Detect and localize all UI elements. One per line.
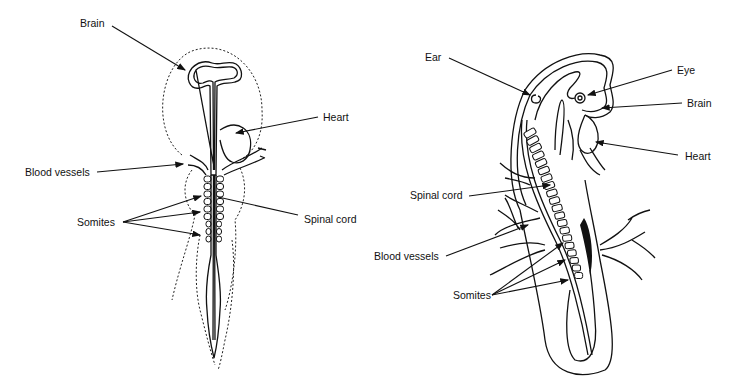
left-embryo: Brain Heart Blood vessels Somites Spinal… bbox=[25, 17, 357, 370]
left-somite bbox=[217, 229, 222, 235]
right-somites-pointer-2 bbox=[492, 260, 565, 295]
right-label-blood-vessels: Blood vessels bbox=[374, 250, 439, 262]
left-somite bbox=[206, 229, 211, 235]
right-somite bbox=[552, 204, 563, 212]
left-somite bbox=[217, 176, 224, 182]
left-spinal-cord-pointer bbox=[218, 197, 298, 215]
left-label-heart: Heart bbox=[323, 111, 349, 123]
right-somite bbox=[567, 250, 576, 257]
right-eye-pointer bbox=[588, 70, 672, 95]
right-somite bbox=[572, 265, 580, 271]
left-somite bbox=[204, 214, 211, 220]
left-somite bbox=[204, 199, 211, 205]
left-somite bbox=[204, 176, 211, 182]
right-label-ear: Ear bbox=[425, 51, 442, 63]
left-brain-pointer bbox=[112, 26, 185, 70]
right-somites-pointer-3 bbox=[492, 280, 568, 295]
left-label-spinal-cord: Spinal cord bbox=[304, 213, 357, 225]
left-label-somites: Somites bbox=[77, 216, 115, 228]
right-somite bbox=[549, 196, 560, 205]
left-label-blood-vessels: Blood vessels bbox=[25, 166, 90, 178]
left-somite bbox=[217, 206, 224, 212]
right-blood-vessels-pointer bbox=[446, 225, 528, 256]
left-blood-vessels-pointer bbox=[97, 164, 183, 172]
left-somite bbox=[217, 199, 224, 205]
right-somite bbox=[562, 234, 572, 241]
right-label-brain: Brain bbox=[687, 97, 712, 109]
right-somite bbox=[557, 219, 567, 227]
left-somite bbox=[217, 236, 222, 242]
left-spinal-cord-inner bbox=[213, 175, 215, 340]
right-somite bbox=[560, 227, 570, 234]
left-blood-vessels-shape bbox=[188, 148, 266, 175]
right-spinal-cord-shape bbox=[521, 120, 592, 355]
left-embryo-outline-upper bbox=[163, 48, 263, 160]
left-somites-pointer-3 bbox=[123, 222, 200, 235]
right-label-somites: Somites bbox=[453, 289, 491, 301]
right-somite bbox=[554, 212, 565, 220]
right-eye-shape bbox=[575, 93, 585, 103]
left-somites-pointer-1 bbox=[123, 196, 201, 222]
embryo-diagram: Brain Heart Blood vessels Somites Spinal… bbox=[0, 0, 735, 390]
left-somite bbox=[206, 236, 211, 242]
left-somite bbox=[217, 221, 222, 227]
right-somite bbox=[546, 189, 558, 198]
right-heart-pointer bbox=[596, 142, 678, 155]
left-somite bbox=[217, 214, 224, 220]
right-label-heart: Heart bbox=[685, 150, 711, 162]
left-somite bbox=[204, 206, 211, 212]
left-somite bbox=[217, 184, 224, 190]
right-brain-pointer bbox=[602, 103, 682, 108]
right-somite bbox=[565, 242, 574, 249]
left-somite bbox=[204, 184, 211, 190]
right-dark-region bbox=[580, 218, 592, 275]
left-heart-pointer bbox=[236, 117, 318, 133]
right-blood-vessels-shape-right bbox=[600, 210, 655, 280]
left-somite bbox=[204, 191, 211, 197]
left-label-brain: Brain bbox=[80, 17, 105, 29]
right-blood-vessels-shape-left bbox=[490, 195, 545, 275]
right-label-spinal-cord: Spinal cord bbox=[410, 189, 463, 201]
right-somite bbox=[575, 273, 583, 279]
right-label-eye: Eye bbox=[677, 64, 695, 76]
left-somite bbox=[217, 191, 224, 197]
right-heart-shape bbox=[578, 115, 598, 153]
left-somite bbox=[206, 221, 211, 227]
right-pharynx-shape bbox=[555, 100, 573, 160]
right-ear-pointer bbox=[449, 58, 530, 95]
left-somites-pointer-2 bbox=[123, 212, 200, 222]
right-ear-shape bbox=[532, 95, 541, 103]
right-somite bbox=[570, 257, 579, 263]
right-embryo: Ear Eye Brain Heart Spinal cord Blood ve… bbox=[374, 51, 712, 375]
right-eye-pupil bbox=[578, 96, 582, 100]
